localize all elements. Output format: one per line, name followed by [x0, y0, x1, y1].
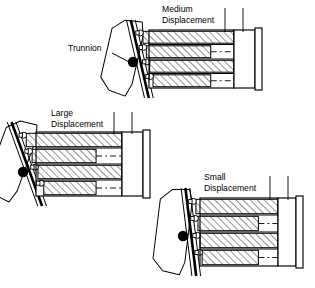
valve-plate: [234, 30, 255, 88]
piston-4: [44, 181, 96, 194]
slipper-shoe-2: [25, 149, 28, 153]
trunnion-label: Trunnion: [68, 43, 102, 53]
pump-displacement-diagram: MediumDisplacementLargeDisplacementSmall…: [0, 0, 315, 288]
slipper-shoe-3: [193, 233, 196, 237]
label-line-2: Displacement: [204, 183, 257, 193]
end-cap: [255, 28, 262, 90]
label-line-1: Small: [204, 172, 226, 182]
slipper-shoe-1: [19, 133, 22, 137]
piston-1: [26, 133, 122, 146]
valve-plate: [122, 132, 143, 196]
piston-3: [38, 165, 122, 178]
label-line-2: Displacement: [162, 15, 215, 25]
slipper-shoe-2: [139, 45, 142, 49]
piston-3: [150, 60, 234, 72]
end-cap: [296, 196, 303, 268]
piston-4: [153, 75, 211, 87]
piston-2: [32, 149, 96, 162]
end-cap: [143, 130, 150, 198]
label-line-2: Displacement: [51, 119, 104, 129]
label-line-1: Large: [51, 108, 73, 118]
slipper-shoe-3: [142, 60, 145, 64]
piston-2: [146, 46, 210, 58]
piston-3: [200, 233, 278, 247]
valve-plate: [278, 198, 296, 266]
slipper-shoe-4: [37, 181, 40, 185]
piston-1: [143, 31, 234, 43]
piston-4: [202, 250, 258, 264]
label-line-1: Medium: [162, 4, 193, 14]
slipper-shoe-2: [191, 216, 194, 220]
slipper-shoe-3: [31, 165, 34, 169]
diagram-canvas: MediumDisplacementLargeDisplacementSmall…: [0, 0, 315, 288]
slipper-shoe-1: [189, 199, 192, 203]
slipper-shoe-1: [136, 31, 139, 35]
trunnion-pivot: [178, 231, 188, 241]
piston-1: [196, 199, 278, 213]
trunnion-pivot: [18, 167, 28, 177]
slipper-shoe-4: [195, 250, 198, 254]
piston-2: [198, 216, 258, 230]
